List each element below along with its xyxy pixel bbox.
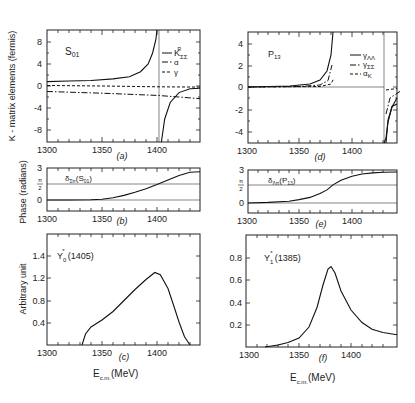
panel-d-ytick-2: 2 xyxy=(238,61,243,71)
panel-a-xtick-1300: 1300 xyxy=(37,145,57,155)
panel-b-phase-s01: 3 π 2 0 1300 1350 1400 (b) Phase (radian… xyxy=(18,160,200,226)
panel-a-curve-k-sigma-sigma xyxy=(47,30,157,82)
panel-f-title: Y1*(1385) xyxy=(264,250,301,265)
panel-a-label: (a) xyxy=(117,151,128,161)
figure: 8 4 0 -4 -8 1300 1350 1400 (a) K - matri… xyxy=(0,0,415,403)
panel-f-y1-1385: 0.8 0.6 0.4 0.2 1300 1350 1400 (f) Y1*(1… xyxy=(229,235,397,385)
panel-f-xtick-1350: 1350 xyxy=(289,350,309,360)
panel-d-ytick-m2: -2 xyxy=(235,105,243,115)
panel-c-ytick-1-2: 1.2 xyxy=(32,273,45,283)
panel-b-xtick-1400: 1400 xyxy=(147,214,167,224)
panel-c-xtick-1300: 1300 xyxy=(37,348,57,358)
panel-e-title: δΛπ(P13) xyxy=(268,176,296,186)
panel-c-title: Y0*(1405) xyxy=(57,248,94,263)
panel-a-ytick-0: 0 xyxy=(37,81,42,91)
panel-a-ytick-8: 8 xyxy=(37,37,42,47)
panel-d-legend: γΛΛ γΣΣ αK xyxy=(350,51,375,79)
panel-d-kmatrix-p13: 4 2 0 -2 -4 1300 1350 1400 (d) P13 γΛΛ γ… xyxy=(235,32,400,162)
panel-f-xtick-1300: 1300 xyxy=(239,350,259,360)
legend-alpha-label: α xyxy=(174,58,179,67)
panel-e-xtick-1300: 1300 xyxy=(237,216,257,226)
panel-f-ytick-0-8: 0.8 xyxy=(229,253,242,263)
panel-a-ylabel: K - matrix elements (fermis) xyxy=(7,31,17,142)
panel-c-y-ticks xyxy=(47,256,200,323)
panel-b-frame xyxy=(47,168,200,211)
panel-f-label: (f) xyxy=(319,353,328,363)
panel-f-ytick-0-6: 0.6 xyxy=(229,275,242,285)
legend-gamma-label: γ xyxy=(174,68,178,77)
panel-f-x-ticks xyxy=(257,235,383,347)
panel-c-xtick-1350: 1350 xyxy=(92,348,112,358)
panel-c-ytick-1-4: 1.4 xyxy=(32,251,45,261)
panel-d-xtick-1350: 1350 xyxy=(289,146,309,156)
panel-d-label: (d) xyxy=(315,152,326,162)
panel-f-xtick-1400: 1400 xyxy=(341,350,361,360)
panel-b-ytick-2: 2 xyxy=(38,185,42,191)
panel-b-ytick-pi: π xyxy=(38,177,42,183)
panel-e-xtick-1400: 1400 xyxy=(342,216,362,226)
panel-c-ylabel: Arbitrary unit xyxy=(18,263,28,315)
panel-b-title: δΣπ(S01) xyxy=(65,174,92,184)
panel-e-ytick-0: 0 xyxy=(239,198,244,208)
panel-d-curve-gamma-sigma-sigma xyxy=(248,65,332,87)
panel-f-ytick-0-4: 0.4 xyxy=(229,298,242,308)
panel-f-xlabel: Ec.m.(MeV) xyxy=(290,372,335,385)
panel-e-xtick-1350: 1350 xyxy=(289,216,309,226)
panel-d-xtick-1300: 1300 xyxy=(237,146,257,156)
panel-c-xlabel: Ec.m.(MeV) xyxy=(93,368,138,381)
panel-e-x-ticks xyxy=(258,170,383,213)
panel-d-curve-gamma-sigma-sigma-lower xyxy=(386,91,400,114)
panel-a-legend: KΣΣR α γ xyxy=(162,46,188,77)
legend-alpha-k-label: αK xyxy=(363,69,372,79)
panel-c-ytick-0-8: 0.8 xyxy=(32,296,45,306)
panel-b-xtick-1350: 1350 xyxy=(92,214,112,224)
panel-c-ytick-0-4: 0.4 xyxy=(32,318,45,328)
panel-e-ytick-3: 3 xyxy=(239,165,244,175)
panel-f-curve-y1-1385 xyxy=(265,267,397,348)
panel-e-ytick-2: 2 xyxy=(239,186,243,192)
panel-e-phase-p13: 3 π 2 0 1300 1350 1400 (e) δΛπ(P13) xyxy=(237,165,397,229)
panel-d-x-ticks xyxy=(258,32,383,143)
panel-d-xtick-1400: 1400 xyxy=(342,146,362,156)
panel-a-xtick-1400: 1400 xyxy=(147,145,167,155)
panel-c-curve-y0-1405 xyxy=(82,273,190,346)
panel-b-label: (b) xyxy=(117,216,128,226)
panel-b-curve-delta-sigma-pi xyxy=(47,172,200,200)
panel-d-title: P13 xyxy=(268,49,281,60)
panel-a-curve-gamma xyxy=(47,86,200,88)
panel-d-ytick-4: 4 xyxy=(238,39,243,49)
panel-b-ytick-0: 0 xyxy=(37,195,42,205)
panel-b-ytick-3: 3 xyxy=(37,163,42,173)
panel-b-xtick-1300: 1300 xyxy=(37,214,57,224)
panel-a-title: S01 xyxy=(65,46,80,58)
panel-d-curve-alpha-k-lower xyxy=(386,89,397,91)
panel-c-xtick-1400: 1400 xyxy=(147,348,167,358)
panel-e-ytick-pi: π xyxy=(239,178,243,184)
panel-a-kmatrix-s01: 8 4 0 -4 -8 1300 1350 1400 (a) K - matri… xyxy=(7,30,200,161)
panel-e-label: (e) xyxy=(316,219,327,229)
panel-b-ylabel: Phase (radians) xyxy=(18,160,28,224)
panel-f-ytick-0-2: 0.2 xyxy=(229,320,242,330)
panel-c-label: (c) xyxy=(119,352,130,362)
panel-d-ytick-m4: -4 xyxy=(235,127,243,137)
panel-a-ytick-4: 4 xyxy=(37,59,42,69)
panel-d-curve-gamma-lambda-lambda xyxy=(248,32,333,87)
panel-a-ytick-m8: -8 xyxy=(34,125,42,135)
panel-c-y0-1405: 1.4 1.2 0.8 0.4 1300 1350 1400 (c) Arbit… xyxy=(18,234,200,381)
panel-a-ytick-m4: -4 xyxy=(34,103,42,113)
panel-d-ytick-0: 0 xyxy=(238,82,243,92)
panel-a-xtick-1350: 1350 xyxy=(92,145,112,155)
